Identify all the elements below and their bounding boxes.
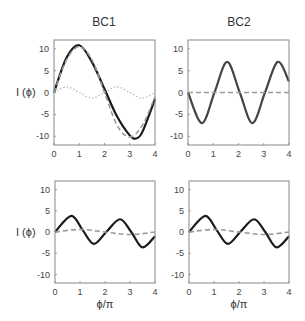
x-tick-label: 4 <box>152 149 157 159</box>
chart-figure: BC1 BC2 I (ϕ) I (ϕ) ϕ/π ϕ/π 012341050-5-… <box>0 0 305 321</box>
y-tick-label: 10 <box>174 185 184 195</box>
y-tick-label: 5 <box>178 66 183 76</box>
panel-bottom-right: 012341050-5-10 <box>171 181 292 297</box>
x-tick-label: 4 <box>286 287 291 297</box>
x-axis-label-left: ϕ/π <box>97 298 114 310</box>
y-tick-label: 10 <box>173 44 183 54</box>
x-tick-label: 1 <box>211 287 216 297</box>
y-tick-label: -10 <box>170 131 183 141</box>
x-tick-label: 3 <box>261 287 266 297</box>
x-tick-label: 1 <box>77 287 82 297</box>
x-tick-label: 0 <box>52 287 57 297</box>
x-tick-label: 2 <box>236 287 241 297</box>
x-tick-label: 0 <box>186 287 191 297</box>
panel-top-right: 012341050-5-10 <box>170 40 292 159</box>
y-tick-label: -5 <box>175 109 183 119</box>
y-tick-label: 0 <box>178 88 183 98</box>
x-tick-label: 0 <box>51 149 56 159</box>
panel-top-left: 012341050-5-10 <box>36 40 158 159</box>
x-tick-label: 3 <box>261 149 266 159</box>
y-tick-label: 10 <box>40 185 50 195</box>
x-tick-label: 4 <box>152 287 157 297</box>
x-tick-label: 0 <box>185 149 190 159</box>
x-tick-label: 2 <box>102 287 107 297</box>
y-tick-label: -5 <box>176 248 184 258</box>
y-tick-label: 5 <box>45 206 50 216</box>
x-tick-label: 2 <box>236 149 241 159</box>
y-tick-label: 0 <box>45 227 50 237</box>
y-tick-label: 0 <box>44 88 49 98</box>
panel-bottom-left: 012341050-5-10 <box>37 181 158 297</box>
y-tick-label: 5 <box>44 66 49 76</box>
x-tick-label: 3 <box>127 287 132 297</box>
y-tick-label: -10 <box>36 131 49 141</box>
x-tick-label: 1 <box>211 149 216 159</box>
panel-title-bc1: BC1 <box>92 15 116 29</box>
x-axis-label-right: ϕ/π <box>231 298 248 310</box>
y-tick-label: 5 <box>179 206 184 216</box>
y-tick-label: 10 <box>39 44 49 54</box>
y-axis-label-bottom: I (ϕ) <box>16 226 36 238</box>
x-tick-label: 1 <box>77 149 82 159</box>
y-tick-label: -10 <box>37 270 50 280</box>
y-tick-label: -5 <box>41 109 49 119</box>
x-tick-label: 2 <box>102 149 107 159</box>
y-tick-label: 0 <box>179 227 184 237</box>
y-tick-label: -10 <box>171 270 184 280</box>
x-tick-label: 4 <box>286 149 291 159</box>
y-axis-label-top: I (ϕ) <box>16 86 36 98</box>
x-tick-label: 3 <box>127 149 132 159</box>
y-tick-label: -5 <box>42 248 50 258</box>
panel-title-bc2: BC2 <box>227 15 251 29</box>
